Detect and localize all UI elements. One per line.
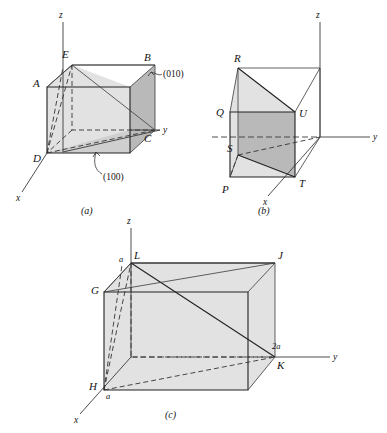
panel-c: G H J K L a a 2a z y x (c) (73, 216, 338, 425)
panel-c-front-face (104, 292, 248, 390)
panel-c-vertex-label-G: G (91, 284, 99, 296)
panel-a-caption: (a) (81, 205, 93, 217)
panel-a: A B C D E z y x (010) (100) (a) (15, 10, 184, 217)
panel-c-vertex-label-L: L (133, 249, 140, 261)
panel-b-caption: (b) (258, 205, 270, 217)
panel-a-vertex-label-E: E (61, 48, 69, 60)
panel-a-axis-label-z: z (58, 10, 63, 20)
panel-b-vertex-label-P: P (221, 183, 229, 195)
panel-a-vertex-label-A: A (32, 77, 40, 89)
panel-c-caption: (c) (165, 409, 177, 421)
figure-root: A B C D E z y x (010) (100) (a) (0, 0, 387, 433)
panel-a-plane-label-010: (010) (163, 69, 184, 80)
panel-b-vertex-label-Q: Q (216, 106, 224, 118)
panel-c-axis-label-x: x (73, 415, 79, 425)
panel-b-top-left-wedge (230, 68, 295, 112)
panel-a-vertex-label-C: C (144, 132, 152, 144)
panel-c-dimension-label-2a: 2a (272, 341, 281, 351)
panel-c-vertex-label-K: K (276, 359, 285, 371)
panel-b-vertex-label-T: T (299, 177, 306, 189)
panel-c-axis-label-y: y (332, 352, 338, 362)
crystal-planes-figure: A B C D E z y x (010) (100) (a) (0, 0, 387, 433)
panel-a-vertex-label-D: D (32, 152, 41, 164)
panel-c-dimension-label-a-bottom: a (106, 391, 110, 401)
panel-a-leader-100 (95, 152, 102, 174)
panel-c-dimension-label-a-top: a (119, 254, 123, 264)
panel-a-axis-label-x: x (15, 193, 21, 203)
panel-c-vertex-label-H: H (88, 380, 98, 392)
panel-c-axis-label-z: z (126, 216, 131, 226)
panel-b-axis-label-z: z (315, 10, 320, 20)
panel-b-vertex-label-S: S (227, 142, 233, 154)
panel-b: P Q R S T U z y x (b) (212, 10, 378, 217)
panel-a-plane-label-100: (100) (103, 172, 124, 183)
panel-c-vertex-label-J: J (278, 249, 284, 261)
panel-a-vertex-label-B: B (144, 51, 151, 63)
panel-b-axis-label-y: y (372, 132, 378, 142)
panel-a-axis-label-y: y (162, 125, 168, 135)
panel-b-vertex-label-U: U (299, 107, 308, 119)
panel-b-vertex-label-R: R (233, 52, 241, 64)
